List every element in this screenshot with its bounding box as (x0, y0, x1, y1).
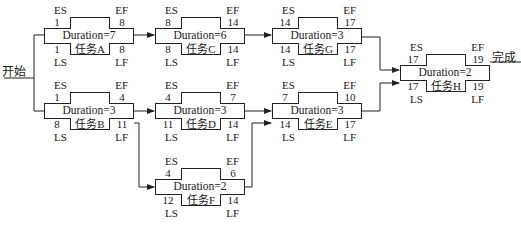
ef-label: EF (115, 5, 128, 16)
task-name: 任务B (72, 118, 108, 130)
late-finish: 8 (109, 43, 134, 55)
es-label: ES (54, 80, 67, 91)
late-finish: 14 (220, 43, 245, 55)
task-name: 任务H (428, 80, 464, 92)
lf-label: LF (226, 208, 239, 219)
task-node-b[interactable]: ES EF LS LF 1 4 Duration=3 8 任务B 11 (44, 92, 134, 130)
early-start: 14 (272, 17, 299, 29)
ef-label: EF (226, 156, 239, 167)
early-finish: 8 (109, 17, 134, 29)
lf-label: LF (343, 132, 356, 143)
duration: Duration=3 (155, 104, 245, 116)
task-node-c[interactable]: ES EF LS LF 8 14 Duration=6 8 任务C 14 (155, 17, 245, 55)
duration: Duration=6 (155, 29, 245, 41)
task-name: 任务F (183, 194, 219, 206)
es-label: ES (165, 80, 178, 91)
early-finish: 7 (220, 92, 245, 104)
task-node-g[interactable]: ES EF LS LF 14 17 Duration=3 14 任务G 17 (272, 17, 362, 55)
lf-label: LF (226, 132, 239, 143)
task-name: 任务E (300, 118, 336, 130)
duration: Duration=3 (44, 104, 134, 116)
lf-label: LF (226, 57, 239, 68)
early-start: 1 (44, 17, 71, 29)
early-finish: 17 (337, 17, 362, 29)
es-label: ES (54, 5, 67, 16)
ls-label: LS (282, 57, 295, 68)
duration: Duration=3 (272, 104, 362, 116)
ls-label: LS (54, 132, 67, 143)
end-label: 完成 (492, 48, 516, 65)
late-start: 11 (155, 118, 182, 130)
late-start: 8 (155, 43, 182, 55)
late-finish: 17 (337, 118, 362, 130)
ef-label: EF (343, 80, 356, 91)
es-label: ES (282, 80, 295, 91)
ls-label: LS (54, 57, 67, 68)
late-start: 14 (272, 118, 299, 130)
task-node-h[interactable]: ES EF LS LF 17 19 Duration=2 17 任务H 19 (400, 54, 490, 92)
late-start: 8 (44, 118, 71, 130)
ls-label: LS (410, 94, 423, 105)
lf-label: LF (471, 94, 484, 105)
duration: Duration=3 (272, 29, 362, 41)
task-name: 任务A (72, 43, 108, 55)
early-start: 8 (155, 17, 182, 29)
ls-label: LS (165, 208, 178, 219)
early-start: 1 (44, 92, 71, 104)
ls-label: LS (282, 132, 295, 143)
early-finish: 19 (465, 54, 490, 66)
early-start: 4 (155, 168, 182, 180)
duration: Duration=7 (44, 29, 134, 41)
early-start: 7 (272, 92, 299, 104)
es-label: ES (282, 5, 295, 16)
ef-label: EF (471, 42, 484, 53)
early-finish: 10 (337, 92, 362, 104)
task-node-d[interactable]: ES EF LS LF 4 7 Duration=3 11 任务D 14 (155, 92, 245, 130)
task-name: 任务D (183, 118, 219, 130)
ls-label: LS (165, 57, 178, 68)
task-name: 任务G (300, 43, 336, 55)
late-start: 14 (272, 43, 299, 55)
duration: Duration=2 (400, 66, 490, 78)
early-finish: 4 (109, 92, 134, 104)
late-finish: 19 (465, 80, 490, 92)
start-label: 开始 (2, 62, 26, 79)
early-finish: 14 (220, 17, 245, 29)
late-start: 17 (400, 80, 427, 92)
lf-label: LF (115, 57, 128, 68)
late-finish: 17 (337, 43, 362, 55)
ef-label: EF (343, 5, 356, 16)
late-start: 12 (155, 194, 182, 206)
es-label: ES (410, 42, 423, 53)
es-label: ES (165, 156, 178, 167)
ls-label: LS (165, 132, 178, 143)
ef-label: EF (226, 5, 239, 16)
late-start: 1 (44, 43, 71, 55)
lf-label: LF (343, 57, 356, 68)
early-finish: 6 (220, 168, 245, 180)
early-start: 4 (155, 92, 182, 104)
task-node-a[interactable]: ES EF LS LF 1 8 Duration=7 1 任务A 8 (44, 17, 134, 55)
late-finish: 11 (109, 118, 134, 130)
task-node-f[interactable]: ES EF LS LF 4 6 Duration=2 12 任务F 14 (155, 168, 245, 206)
lf-label: LF (115, 132, 128, 143)
duration: Duration=2 (155, 180, 245, 192)
ef-label: EF (115, 80, 128, 91)
late-finish: 14 (220, 194, 245, 206)
ef-label: EF (226, 80, 239, 91)
early-start: 17 (400, 54, 427, 66)
task-name: 任务C (183, 43, 219, 55)
late-finish: 14 (220, 118, 245, 130)
task-node-e[interactable]: ES EF LS LF 7 10 Duration=3 14 任务E 17 (272, 92, 362, 130)
es-label: ES (165, 5, 178, 16)
